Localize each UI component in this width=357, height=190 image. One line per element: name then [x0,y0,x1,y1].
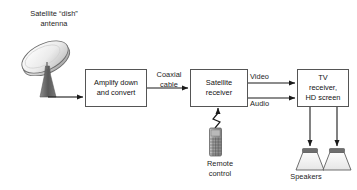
satellite-receiver-label: Satellite receiver [206,78,232,98]
coaxial-cable-label: Coaxial cable [150,70,188,89]
speaker-right-icon [323,149,351,171]
audio-label: Audio [250,99,286,109]
satellite-dish-label: Satellite “dish” antenna [4,9,104,28]
remote-control-label: Remote control [182,159,258,178]
amplify-down-convert-box: Amplify down and convert [85,69,147,107]
tv-receiver-label: TV receiver, HD screen [306,73,341,102]
amplify-down-convert-label: Amplify down and convert [94,78,138,98]
speakers-label: Speakers [268,172,344,182]
video-label: Video [250,72,286,82]
satellite-receiver-box: Satellite receiver [190,69,248,107]
satellite-dish-icon [18,38,72,76]
remote-control-icon [210,128,222,156]
tv-receiver-box: TV receiver, HD screen [297,69,349,107]
diagram-canvas: Satellite “dish” antenna [0,0,357,190]
speaker-left-icon [296,149,324,171]
connector-remote-to-receiver [213,108,220,128]
